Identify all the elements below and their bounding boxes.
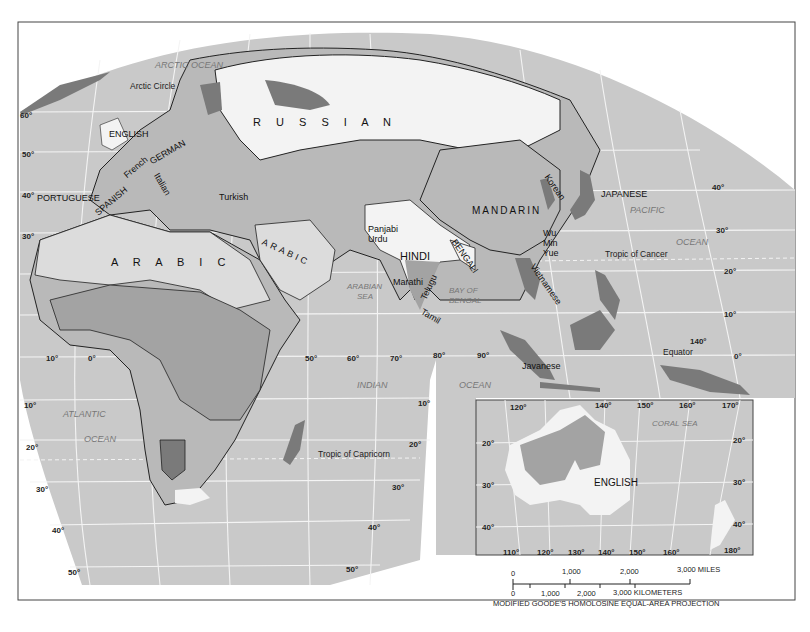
lon-label-90: 90° xyxy=(477,352,489,360)
label-wu: Wu xyxy=(543,229,556,238)
inset-lon-bottom-120: 120° xyxy=(537,549,554,557)
inset-lat-right-20: 20° xyxy=(733,437,745,445)
label-bengal-sea: BENGAL xyxy=(449,297,481,305)
label-tropic-capricorn: Tropic of Capricorn xyxy=(318,450,390,459)
scale-km-2000: 2,000 xyxy=(577,590,596,598)
label-english-aus: ENGLISH xyxy=(594,478,638,488)
label-urdu: Urdu xyxy=(368,235,388,244)
lat-label-s20: 20° xyxy=(26,444,38,452)
lat-label-r40: 40° xyxy=(712,184,724,192)
scale-mile-1000: 1,000 xyxy=(562,568,581,576)
inset-lon-top-170: 170° xyxy=(722,402,739,410)
lat-label-50: 50° xyxy=(22,151,34,159)
lat-label-r0: 0° xyxy=(734,353,742,361)
label-tropic-cancer: Tropic of Cancer xyxy=(605,250,668,259)
lon-label-60: 60° xyxy=(347,355,359,363)
label-english-uk: ENGLISH xyxy=(109,130,149,139)
inset-lon-bottom-140: 140° xyxy=(598,549,615,557)
lat-label-s30: 30° xyxy=(36,486,48,494)
label-sea: SEA xyxy=(357,293,373,301)
label-pacific: PACIFIC xyxy=(630,206,665,215)
lon-label-0: 0° xyxy=(88,355,96,363)
label-hindi: HINDI xyxy=(400,251,430,262)
inset-lat-left-40: 40° xyxy=(482,524,494,532)
label-equator: Equator xyxy=(663,348,693,357)
label-coral-sea: CORAL SEA xyxy=(652,420,698,428)
lat-label-ind20: 20° xyxy=(409,441,421,449)
lat-label-40: 40° xyxy=(22,192,34,200)
scale-mile-2000: 2,000 xyxy=(620,568,639,576)
inset-lon-top-150: 150° xyxy=(637,402,654,410)
inset-lon-top-120: 120° xyxy=(510,404,527,412)
scale-mile-3000: 3,000 MILES xyxy=(677,566,720,574)
projection-caption: MODIFIED GOODE'S HOMOLOSINE EQUAL-AREA P… xyxy=(493,600,719,608)
inset-lat-left-30: 30° xyxy=(482,482,494,490)
label-atlantic-ocean: OCEAN xyxy=(84,435,116,444)
inset-lon-top-160: 160° xyxy=(679,402,696,410)
language-map xyxy=(0,0,810,632)
label-arabian: ARABIAN xyxy=(347,283,382,291)
label-arabic-africa: A R A B I C xyxy=(111,257,231,268)
lat-label-r30: 30° xyxy=(716,227,728,235)
lon-label-80: 80° xyxy=(433,352,445,360)
lon-label-w10: 10° xyxy=(46,355,58,363)
label-indian-ocean: OCEAN xyxy=(459,381,491,390)
lon-label-70: 70° xyxy=(390,355,402,363)
lat-label-s40: 40° xyxy=(52,527,64,535)
inset-lon-top-140: 140° xyxy=(595,402,612,410)
label-japanese: JAPANESE xyxy=(601,190,647,199)
lat-label-ind50: 50° xyxy=(346,566,358,574)
label-yue: Yue xyxy=(543,249,559,258)
label-bay-of: BAY OF xyxy=(449,287,478,295)
inset-lon-bottom-160: 160° xyxy=(663,549,680,557)
label-mandarin: MANDARIN xyxy=(472,206,541,216)
label-arctic-ocean: ARCTIC OCEAN xyxy=(155,61,223,70)
label-marathi: Marathi xyxy=(393,278,423,287)
lat-label-r10: 10° xyxy=(724,311,736,319)
scale-km-3000: 3,000 KILOMETERS xyxy=(613,589,682,597)
inset-lat-right-40: 40° xyxy=(733,521,745,529)
label-pacific-ocean: OCEAN xyxy=(676,238,708,247)
label-arctic-circle: Arctic Circle xyxy=(130,82,175,91)
scale-km-0: 0 xyxy=(511,590,515,598)
lat-label-ind40: 40° xyxy=(368,524,380,532)
lat-label-30: 30° xyxy=(22,233,34,241)
inset-lon-bottom-110: 110° xyxy=(503,549,519,557)
inset-lon-bottom-130: 130° xyxy=(568,549,585,557)
lat-label-ind10: 10° xyxy=(418,400,430,408)
label-indian: INDIAN xyxy=(357,381,388,390)
label-russian: R U S S I A N xyxy=(253,117,397,128)
lat-label-s10: 10° xyxy=(24,402,36,410)
label-min: Min xyxy=(543,239,558,248)
lat-label-r20: 20° xyxy=(724,268,736,276)
label-portuguese: PORTUGUESE xyxy=(37,194,100,203)
lat-label-60: 60° xyxy=(20,112,32,120)
inset-lon-bottom-150: 150° xyxy=(629,549,646,557)
label-atlantic: ATLANTIC xyxy=(63,410,106,419)
inset-lat-left-20: 20° xyxy=(482,440,494,448)
inset-lon-bottom-180: 180° xyxy=(724,547,741,555)
label-turkish: Turkish xyxy=(219,193,248,202)
scale-km-1000: 1,000 xyxy=(541,590,560,598)
label-panjabi: Panjabi xyxy=(368,225,398,234)
lon-label-50: 50° xyxy=(305,355,317,363)
lat-label-s50: 50° xyxy=(68,569,80,577)
lat-label-ind30: 30° xyxy=(392,484,404,492)
inset-lat-right-30: 30° xyxy=(733,479,745,487)
scale-mile-0: 0 xyxy=(511,570,515,578)
lon-label-140: 140° xyxy=(690,338,707,346)
label-javanese: Javanese xyxy=(522,362,561,371)
